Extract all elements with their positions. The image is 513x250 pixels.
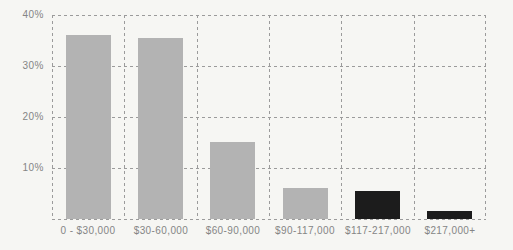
- x-tick-label-1: 0 - $30,000: [61, 225, 116, 237]
- y-tick-label-40: 40%: [0, 9, 44, 21]
- gridline-vertical-6: [485, 15, 486, 219]
- gridline-vertical-0: [52, 15, 53, 219]
- y-tick-label-30: 30%: [0, 60, 44, 72]
- bar-5: [355, 191, 400, 219]
- bar-6: [427, 211, 472, 219]
- y-tick-label-20: 20%: [0, 111, 44, 123]
- x-tick-label-2: $30-60,000: [134, 225, 189, 237]
- gridline-vertical-4: [341, 15, 342, 219]
- bar-2: [138, 38, 183, 219]
- gridline-vertical-2: [197, 15, 198, 219]
- plot-area: [52, 15, 486, 219]
- x-tick-label-3: $60-90,000: [206, 225, 261, 237]
- gridline-vertical-1: [124, 15, 125, 219]
- x-tick-label-5: $117-217,000: [345, 225, 411, 237]
- bar-3: [210, 142, 255, 219]
- x-tick-label-4: $90-117,000: [275, 225, 335, 237]
- gridline-vertical-3: [269, 15, 270, 219]
- y-tick-label-10: 10%: [0, 162, 44, 174]
- bar-4: [283, 188, 328, 219]
- income-distribution-bar-chart: 40%30%20%10% 0 - $30,000$30-60,000$60-90…: [0, 0, 513, 250]
- gridline-vertical-5: [414, 15, 415, 219]
- bar-1: [66, 35, 111, 219]
- gridline-horizontal-0: [52, 219, 486, 220]
- x-tick-label-6: $217,000+: [424, 225, 475, 237]
